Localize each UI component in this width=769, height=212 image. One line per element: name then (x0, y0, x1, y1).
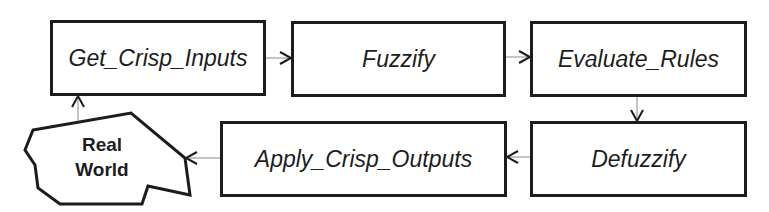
arrow-defuzzify-to-apply (507, 151, 530, 163)
node-evaluate-rules: Evaluate_Rules (530, 21, 747, 97)
arrow-fuzzify-to-evaluate (506, 51, 530, 63)
node-label: Fuzzify (362, 46, 435, 73)
node-fuzzify: Fuzzify (291, 21, 506, 97)
node-label: Get_Crisp_Inputs (69, 45, 248, 72)
node-real-world-label: Real World (62, 132, 142, 182)
fuzzy-control-flow-diagram: Get_Crisp_Inputs Fuzzify Evaluate_Rules … (0, 0, 769, 212)
node-apply-crisp-outputs: Apply_Crisp_Outputs (220, 121, 507, 197)
arrow-apply-to-realworld (186, 152, 220, 164)
node-label: Defuzzify (591, 146, 686, 173)
node-defuzzify: Defuzzify (530, 121, 747, 197)
real-world-line1: Real (62, 132, 142, 157)
node-label: Evaluate_Rules (558, 46, 719, 73)
arrow-realworld-to-inputs (72, 96, 84, 121)
arrow-inputs-to-fuzzify (266, 52, 291, 64)
node-label: Apply_Crisp_Outputs (255, 146, 472, 173)
real-world-line2: World (62, 157, 142, 182)
arrow-evaluate-to-defuzzify (631, 97, 643, 121)
node-get-crisp-inputs: Get_Crisp_Inputs (50, 20, 266, 96)
